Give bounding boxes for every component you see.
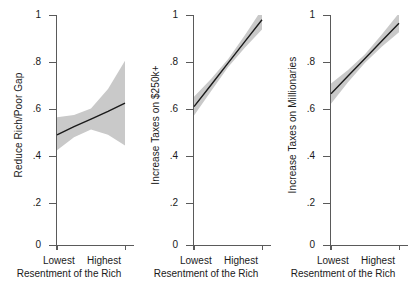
y-tick-mark	[186, 203, 193, 204]
panel-1-plot-svg	[56, 15, 134, 250]
y-tick-mark	[49, 156, 56, 157]
y-tick-label: 0	[291, 240, 315, 250]
y-tick-label: 1	[17, 10, 41, 20]
panel-3-plot-svg	[330, 15, 408, 250]
y-tick-mark	[186, 62, 193, 63]
plot-area: 1 .8 .6 .4 .2 0 Lowest Highest	[181, 10, 271, 250]
x-tick-label-highest: Highest	[87, 255, 121, 267]
y-tick-mark	[186, 109, 193, 110]
y-tick-label: 0	[154, 240, 178, 250]
x-tick-label-highest: Highest	[361, 255, 395, 267]
x-tick-label-lowest: Lowest	[180, 255, 212, 267]
plot-area: 1 .8 .6 .4 .2 0 Lowest Highest	[44, 10, 134, 250]
y-tick-label: .4	[154, 151, 178, 161]
y-tick-mark	[186, 245, 193, 246]
panel-reduce-rich-poor-gap: Reduce Rich/Poor Gap 1 .8 .6 .4 .2 0 Low…	[0, 0, 138, 296]
y-tick-label: .6	[291, 104, 315, 114]
y-tick-label: .2	[291, 198, 315, 208]
y-tick-label: .6	[17, 104, 41, 114]
x-tick-label-lowest: Lowest	[317, 255, 349, 267]
y-tick-mark	[323, 203, 330, 204]
y-tick-label: .6	[154, 104, 178, 114]
y-tick-label: 0	[17, 240, 41, 250]
panel-increase-taxes-millionaires: Increase Taxes on Millionaries 1 .8 .6 .…	[274, 0, 412, 296]
x-axis-label: Resentment of the Rich	[137, 268, 275, 280]
y-tick-label: .8	[17, 57, 41, 67]
y-tick-mark	[323, 62, 330, 63]
y-tick-mark	[323, 109, 330, 110]
plot-area: 1 .8 .6 .4 .2 0 Lowest Highest	[318, 10, 408, 250]
y-tick-mark	[49, 203, 56, 204]
y-tick-label: 1	[154, 10, 178, 20]
y-tick-mark	[49, 62, 56, 63]
x-axis-label: Resentment of the Rich	[274, 268, 412, 280]
regression-line	[331, 23, 399, 94]
y-tick-label: .2	[154, 198, 178, 208]
y-tick-mark	[49, 109, 56, 110]
x-axis-label: Resentment of the Rich	[0, 268, 138, 280]
regression-line	[194, 20, 262, 107]
panel-2-plot-svg	[193, 15, 271, 250]
y-tick-label: .8	[154, 57, 178, 67]
y-tick-mark	[323, 15, 330, 16]
y-tick-label: .4	[291, 151, 315, 161]
x-tick-label-highest: Highest	[224, 255, 258, 267]
three-panel-regression-figure: Reduce Rich/Poor Gap 1 .8 .6 .4 .2 0 Low…	[0, 0, 415, 296]
y-tick-label: .2	[17, 198, 41, 208]
panel-increase-taxes-250k: Increase Taxes on $250k+ 1 .8 .6 .4 .2 0…	[137, 0, 275, 296]
x-tick-label-lowest: Lowest	[43, 255, 75, 267]
confidence-band	[57, 61, 125, 150]
y-tick-label: .8	[291, 57, 315, 67]
confidence-band	[194, 15, 262, 116]
y-tick-mark	[49, 245, 56, 246]
y-tick-mark	[186, 15, 193, 16]
y-tick-mark	[323, 156, 330, 157]
y-tick-label: .4	[17, 151, 41, 161]
y-tick-mark	[186, 156, 193, 157]
y-tick-mark	[323, 245, 330, 246]
y-tick-mark	[49, 15, 56, 16]
y-tick-label: 1	[291, 10, 315, 20]
